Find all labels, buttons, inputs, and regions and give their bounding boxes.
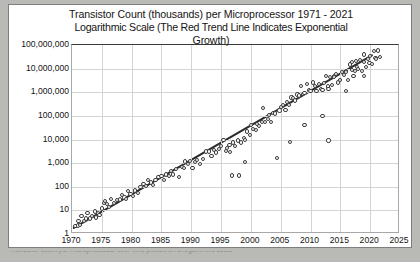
x-axis-tick-label: 2010 [300,235,319,245]
chart-title-line-2: Logarithmic Scale (The Red Trend Line In… [9,21,412,34]
gridline-horizontal [72,92,398,93]
scatter-point [85,211,89,215]
gridline-vertical [281,45,282,232]
gridline-vertical [370,45,371,232]
gridline-horizontal [72,210,398,211]
scatter-point [261,106,265,110]
x-axis-tick-label: 2005 [270,235,289,245]
x-axis-tick-label: 1970 [61,235,80,245]
x-axis-tick-labels: 1970197519801985199019952000200520102015… [71,235,399,248]
x-axis-tick-label: 2000 [240,235,259,245]
scatter-point [230,173,234,177]
scatter-point [118,197,122,201]
scatter-point [144,184,148,188]
gridline-vertical [251,45,252,232]
scatter-point [79,214,83,218]
y-axis-tick-label: 10,000 [11,134,69,144]
scatter-point [302,123,306,127]
scatter-point [254,128,258,132]
scatter-point [362,60,366,64]
y-axis-tick-label: 100,000 [11,110,69,120]
gridline-vertical [311,45,312,232]
gridline-vertical [161,45,162,232]
scatter-point [219,144,223,148]
scatter-point [376,48,380,52]
scatter-point [320,114,324,118]
scatter-point [293,98,297,102]
y-axis-tick-label: 10 [11,204,69,214]
scatter-point [209,154,213,158]
scatter-point [107,205,111,209]
scatter-point [362,52,366,56]
scatter-point [297,93,301,97]
scatter-point [100,206,104,210]
x-axis-tick-label: 2025 [389,235,408,245]
scatter-point [136,191,140,195]
x-axis-tick-label: 1980 [121,235,140,245]
scatter-point [360,69,364,73]
chart-title-line-1: Transistor Count (thousands) per Micropr… [9,8,412,21]
caption-text: Transistor count per microprocessor over… [10,251,232,253]
scatter-point [275,156,279,160]
scatter-point [288,140,292,144]
y-axis-tick-label: 1,000,000 [11,86,69,96]
chart-figure: Transistor Count (thousands) per Micropr… [8,4,412,248]
scatter-point [308,89,312,93]
gridline-vertical [191,45,192,232]
scatter-point [97,213,101,217]
scatter-point [351,74,355,78]
plot-area [71,44,399,233]
x-axis-tick-label: 1990 [181,235,200,245]
gridline-horizontal [72,187,398,188]
y-axis-tick-labels: 1101001,00010,000100,0001,000,00010,000,… [9,44,69,233]
gridline-vertical [132,45,133,232]
y-axis-tick-label: 100,000,000 [11,39,69,49]
scatter-point [221,138,225,142]
scatter-point [305,82,309,86]
scatter-point [228,150,232,154]
scatter-point [317,82,321,86]
caption-strip: Transistor count per microprocessor over… [8,251,412,262]
x-axis-tick-label: 1975 [91,235,110,245]
scatter-point [167,174,171,178]
scatter-point [273,111,277,115]
y-axis-tick-label: 1 [11,228,69,238]
scatter-point [364,65,368,69]
scatter-point [162,178,166,182]
y-axis-tick-label: 1,000 [11,157,69,167]
scatter-point [237,173,241,177]
scatter-point [207,149,211,153]
scatter-point [299,84,303,88]
trend-line [72,45,398,232]
gridline-horizontal [72,116,398,117]
x-axis-tick-label: 1995 [211,235,230,245]
y-axis-tick-label: 100 [11,181,69,191]
scatter-point [326,138,330,142]
scatter-point [314,89,318,93]
chart-title: Transistor Count (thousands) per Micropr… [9,8,412,48]
gridline-horizontal [72,163,398,164]
x-axis-tick-label: 1985 [151,235,170,245]
scatter-point [370,62,374,66]
x-axis-tick-label: 2015 [330,235,349,245]
x-axis-tick-label: 2020 [360,235,379,245]
y-axis-tick-label: 10,000,000 [11,63,69,73]
scatter-point [326,87,330,91]
scatter-point [283,108,287,112]
scatter-point [124,197,128,201]
